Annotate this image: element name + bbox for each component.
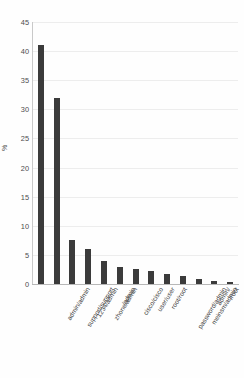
bar	[85, 249, 91, 284]
bar	[196, 279, 202, 284]
y-axis-tick-label: 15	[8, 192, 29, 201]
y-axis-tick-label: 45	[8, 18, 29, 27]
bar	[164, 274, 170, 284]
bar	[148, 271, 154, 284]
x-axis-line	[32, 284, 239, 285]
bar	[38, 45, 44, 284]
bar	[211, 281, 217, 284]
y-axis-tick-label: 10	[8, 221, 29, 230]
x-axis-labels: admin/adminsupport/support1234/adminzhon…	[33, 286, 244, 378]
bar	[180, 276, 186, 284]
y-axis-tick-label: 5	[8, 250, 29, 259]
y-axis-tick-label: 30	[8, 105, 29, 114]
bar	[227, 282, 233, 284]
bar	[101, 261, 107, 284]
y-axis-title: %	[1, 145, 8, 151]
y-axis-tick-label: 0	[8, 280, 29, 289]
bar	[133, 269, 139, 284]
y-axis-tick-label: 20	[8, 163, 29, 172]
x-axis-tick-label: admin/admin	[65, 286, 91, 321]
bar	[69, 240, 75, 284]
y-axis-tick-label: 35	[8, 76, 29, 85]
y-axis-tick-label: 25	[8, 134, 29, 143]
y-axis-tick-label: 40	[8, 47, 29, 56]
bar-chart: 454035302520151050 % admin/adminsupport/…	[0, 0, 244, 378]
bar	[117, 267, 123, 284]
bar	[54, 98, 60, 284]
bar-series	[33, 22, 238, 284]
